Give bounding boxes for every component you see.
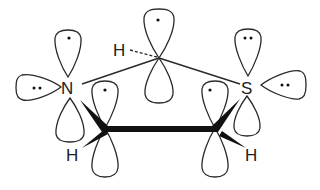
- s-top-lobe: [235, 29, 261, 76]
- s-right-pair-dot-2: [287, 84, 290, 87]
- atom-h-left: H: [66, 146, 78, 165]
- center-bottom-lobe: [145, 58, 173, 103]
- s-top-pair-dot-2: [250, 37, 253, 40]
- center-top-lobe: [144, 9, 174, 58]
- orbital-diagram: N S H H H: [0, 0, 320, 190]
- dashed-bond-h-center: [130, 50, 157, 57]
- s-top-pair-dot-1: [244, 37, 247, 40]
- n-lone-pair-dot-2: [39, 87, 42, 90]
- n-bottom-lobe: [56, 98, 84, 142]
- s-right-pair-dot-1: [281, 84, 284, 87]
- s-right-lobe: [261, 71, 306, 99]
- n-left-lobe: [16, 75, 61, 101]
- c1-top-electron: [103, 88, 106, 91]
- atom-h-top: H: [113, 41, 125, 60]
- atom-nitrogen: N: [61, 79, 73, 98]
- atom-h-right: H: [245, 146, 257, 165]
- center-top-electron: [156, 18, 159, 21]
- atom-sulfur: S: [241, 79, 252, 98]
- n-lone-pair-dot-1: [33, 87, 36, 90]
- c2-top-electron: [208, 88, 211, 91]
- n-top-electron: [67, 36, 70, 39]
